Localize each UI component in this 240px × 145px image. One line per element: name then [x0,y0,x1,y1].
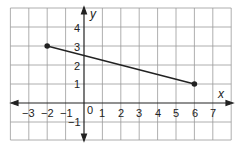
x-tick: 7 [210,107,216,119]
x-tick: 5 [173,107,179,119]
endpoint-marker [44,43,50,49]
x-tick: 2 [118,107,124,119]
coordinate-plane: y x −3 −2 −1 0 1 2 3 4 5 6 7 4 3 2 1 −1 [0,0,240,145]
x-axis-label: x [217,87,225,101]
y-tick: 2 [74,60,80,72]
y-tick: 1 [74,78,80,90]
x-tick: −3 [22,107,35,119]
y-tick: −1 [68,116,81,128]
endpoint-marker [192,81,198,87]
y-tick: 4 [74,22,80,34]
x-axis-right-arrow-icon [226,101,233,106]
x-tick: 1 [99,107,105,119]
x-tick-labels: −3 −2 −1 0 1 2 3 4 5 6 7 [22,104,216,119]
grid [10,8,231,140]
x-tick: 6 [192,107,198,119]
x-tick: 3 [136,107,142,119]
x-tick: 4 [155,107,161,119]
y-axis-label: y [89,7,97,21]
origin-label: 0 [87,104,93,116]
x-tick: −2 [41,107,54,119]
x-axis-left-arrow-icon [11,101,18,106]
y-tick: 3 [74,41,80,53]
